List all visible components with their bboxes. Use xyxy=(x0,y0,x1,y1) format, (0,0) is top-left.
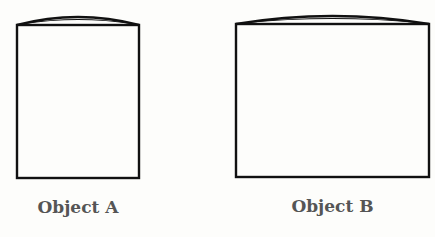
object-a-shape xyxy=(17,17,139,178)
object-b-box xyxy=(236,24,429,177)
object-b-label: Object B xyxy=(236,196,429,216)
object-a-label: Object A xyxy=(17,197,139,217)
object-a-box xyxy=(17,25,139,178)
object-b-shape xyxy=(236,16,429,177)
